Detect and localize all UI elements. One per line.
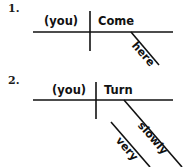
- diagram-1-number: 1.: [8, 3, 19, 14]
- sentence-diagram-figure: 1. (you) Come here 2. (you) Turn slowly …: [0, 0, 186, 167]
- diagram-2-modifier-word: slowly: [136, 120, 170, 157]
- diagram-1-verb-word: Come: [98, 16, 134, 28]
- diagram-2-number: 2.: [8, 75, 19, 86]
- diagram-1-subject-word: (you): [44, 16, 78, 28]
- diagram-2-submodifier-word: very: [114, 135, 140, 163]
- diagram-2-subject-word: (you): [52, 85, 86, 97]
- diagram-2-verb-word: Turn: [104, 85, 133, 97]
- diagram-1-modifier-word: here: [130, 40, 157, 68]
